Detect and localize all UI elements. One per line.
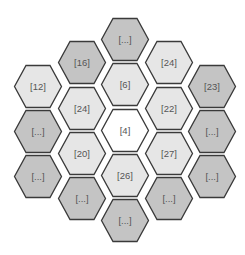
hexagon-grid-diagram: [...][16][24][12][6][23][24][22][...][4]…	[0, 0, 245, 255]
hex-cell: [...]	[188, 110, 236, 153]
hex-label: [16]	[58, 41, 106, 84]
hex-label: [12]	[14, 65, 62, 108]
hex-cell: [16]	[58, 41, 106, 84]
hex-label: [...]	[58, 177, 106, 220]
hex-label: [24]	[145, 41, 193, 84]
hex-cell: [27]	[145, 132, 193, 175]
hex-label: [27]	[145, 132, 193, 175]
hex-cell: [...]	[58, 177, 106, 220]
hex-cell: [4]	[101, 109, 149, 152]
hex-label: [26]	[101, 154, 149, 197]
hex-cell: [22]	[145, 87, 193, 130]
hex-label: [...]	[188, 155, 236, 198]
hex-label: [...]	[145, 177, 193, 220]
hex-cell: [...]	[145, 177, 193, 220]
hex-cell: [12]	[14, 65, 62, 108]
hex-label: [...]	[101, 18, 149, 61]
hex-label: [4]	[101, 109, 149, 152]
hex-cell: [6]	[101, 63, 149, 106]
hex-label: [22]	[145, 87, 193, 130]
hex-cell: [26]	[101, 154, 149, 197]
hex-label: [20]	[58, 132, 106, 175]
hex-cell: [...]	[188, 155, 236, 198]
hex-label: [...]	[101, 199, 149, 242]
hex-label: [6]	[101, 63, 149, 106]
hex-cell: [...]	[101, 199, 149, 242]
hex-cell: [...]	[14, 110, 62, 153]
hex-label: [23]	[188, 65, 236, 108]
hex-cell: [...]	[14, 155, 62, 198]
hex-cell: [23]	[188, 65, 236, 108]
hex-cell: [24]	[58, 87, 106, 130]
hex-cell: [20]	[58, 132, 106, 175]
hex-cell: [24]	[145, 41, 193, 84]
hex-label: [...]	[14, 110, 62, 153]
hex-label: [24]	[58, 87, 106, 130]
hex-cell: [...]	[101, 18, 149, 61]
hex-label: [...]	[14, 155, 62, 198]
hex-label: [...]	[188, 110, 236, 153]
